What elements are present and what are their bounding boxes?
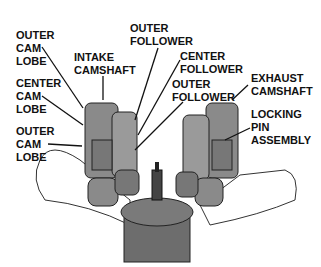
label-center-follower: CENTER FOLLOWER <box>180 50 243 76</box>
label-intake-camshaft: INTAKE CAMSHAFT <box>74 51 136 77</box>
label-locking-pin-assembly: LOCKING PIN ASSEMBLY <box>251 108 311 147</box>
label-outer-follower-top: OUTER FOLLOWER <box>130 22 193 48</box>
label-outer-cam-lobe-top: OUTER CAM LOBE <box>16 29 55 68</box>
label-outer-cam-lobe-bottom: OUTER CAM LOBE <box>16 125 55 164</box>
intake-valve-spring <box>88 178 118 206</box>
exhaust-valve-spring <box>195 178 223 206</box>
label-outer-follower-mid: OUTER FOLLOWER <box>172 78 235 104</box>
label-exhaust-camshaft: EXHAUST CAMSHAFT <box>251 72 313 98</box>
label-center-cam-lobe: CENTER CAM LOBE <box>16 77 61 116</box>
spark-plug <box>152 170 162 200</box>
